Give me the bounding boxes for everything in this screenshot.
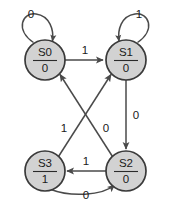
- edge-s1-self-loop: 1: [119, 8, 149, 42]
- edge-s1-to-s2-label: 0: [133, 109, 139, 121]
- edge-s0-self-loop: 0: [22, 8, 52, 42]
- state-node-s3-output: 1: [42, 173, 48, 185]
- state-node-s3-name: S3: [38, 157, 52, 169]
- state-diagram-canvas: 0 1 1 0 0 1 1: [0, 0, 171, 210]
- edge-s2-to-s3-label: 1: [83, 155, 89, 167]
- edge-s1-to-s2: 0: [126, 80, 139, 149]
- state-node-s2[interactable]: S2 0: [106, 151, 146, 191]
- edge-s0-to-s1-label: 1: [82, 44, 88, 56]
- edge-s2-to-s0: 0: [60, 75, 113, 157]
- state-node-s0-output: 0: [42, 62, 48, 74]
- edge-s3-to-s2-label: 0: [83, 189, 89, 201]
- state-node-s0[interactable]: S0 0: [25, 40, 65, 80]
- edge-s3-to-s1-path: [59, 75, 112, 157]
- state-node-s2-output: 0: [123, 173, 129, 185]
- state-node-s1-output: 0: [123, 62, 129, 74]
- edge-s0-to-s1: 1: [65, 44, 103, 60]
- edge-s0-self-loop-label: 0: [28, 8, 34, 20]
- state-node-s1-name: S1: [119, 46, 133, 58]
- edge-s3-to-s2: 0: [51, 185, 115, 201]
- edge-s3-to-s1: 1: [59, 75, 112, 157]
- state-diagram-svg: 0 1 1 0 0 1 1: [0, 0, 171, 210]
- edge-s2-to-s0-path: [60, 75, 113, 157]
- edge-s3-to-s1-label: 1: [61, 122, 67, 134]
- state-node-s0-name: S0: [38, 46, 52, 58]
- edge-s2-to-s0-label: 0: [103, 122, 109, 134]
- edge-s1-self-loop-path: [119, 14, 149, 43]
- state-node-s3[interactable]: S3 1: [25, 151, 65, 191]
- edge-s2-to-s3: 1: [67, 155, 106, 171]
- state-node-s2-name: S2: [119, 157, 133, 169]
- state-node-s1[interactable]: S1 0: [106, 40, 146, 80]
- edge-s1-self-loop-label: 1: [136, 8, 142, 20]
